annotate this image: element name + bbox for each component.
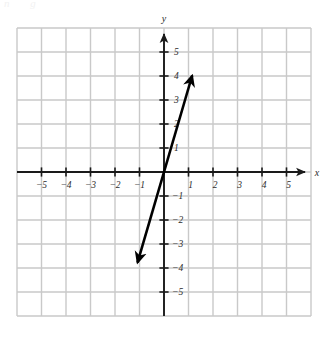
y-tick-label: 4 — [174, 71, 179, 81]
x-tick-label: −4 — [60, 180, 71, 190]
coordinate-plane: −5 −4 −3 −2 −1 1 2 3 4 5 5 4 3 2 1 −1 −2… — [0, 0, 331, 337]
faint-header-text: n g — [4, 0, 45, 9]
x-tick-label: −1 — [134, 180, 145, 190]
y-tick-label: −3 — [172, 239, 183, 249]
y-tick-label: −2 — [172, 215, 183, 225]
y-tick-label: 1 — [174, 143, 179, 153]
x-tick-label: −3 — [85, 180, 96, 190]
y-tick-label: −5 — [172, 287, 183, 297]
y-tick-label: 5 — [174, 47, 179, 57]
y-tick-label: −4 — [172, 263, 183, 273]
x-tick-label: −2 — [109, 180, 120, 190]
x-tick-label: 4 — [262, 180, 267, 190]
x-tick-label: 3 — [236, 180, 242, 190]
y-axis-label: y — [161, 13, 167, 24]
graph-figure: n g — [0, 0, 331, 337]
x-tick-label: −5 — [36, 180, 47, 190]
y-tick-label: 3 — [173, 95, 179, 105]
x-tick-label: 2 — [213, 180, 218, 190]
x-axis-label: x — [314, 167, 320, 178]
y-tick-label: −1 — [172, 191, 183, 201]
x-tick-label: 1 — [188, 180, 193, 190]
x-tick-label: 5 — [286, 180, 291, 190]
